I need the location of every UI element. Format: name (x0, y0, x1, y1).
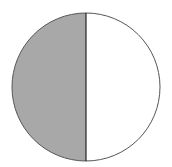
unshaded-right-half (86, 13, 160, 161)
shaded-left-half (12, 13, 86, 161)
half-shaded-circle-diagram (0, 0, 172, 167)
